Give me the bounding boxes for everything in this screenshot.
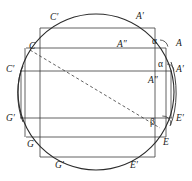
label-G-lower-left: G (27, 140, 34, 150)
label-E-prime-bottom: E′ (130, 161, 138, 171)
label-A-prime-right: A′ (176, 65, 184, 75)
alpha-arc-upper (160, 40, 168, 47)
label-G-prime-bottom: G′ (55, 161, 64, 171)
label-A-double-prime-upper: A″ (117, 40, 127, 50)
label-alpha-upper: α (152, 37, 157, 47)
label-A-prime-top: A′ (136, 12, 144, 22)
geometry-canvas (0, 0, 192, 181)
label-A-double-prime-lower: A″ (148, 76, 158, 86)
label-G-prime-left: G′ (6, 114, 15, 124)
geometry-figure: C′A′A″ACC′A′A″G′E′GEG′E′ααβ (0, 0, 192, 181)
label-C-prime-top: C′ (50, 13, 58, 23)
label-E-lower-right: E (163, 138, 169, 148)
main-circle (18, 14, 174, 170)
label-alpha-lower: α (158, 60, 163, 70)
label-C-prime-left: C′ (6, 65, 14, 75)
label-beta: β (150, 118, 155, 128)
label-C-upper-left: C (29, 42, 35, 52)
diagonal-c-to-e (30, 50, 160, 128)
label-A-right: A (176, 39, 182, 49)
label-E-prime-right: E′ (176, 114, 184, 124)
